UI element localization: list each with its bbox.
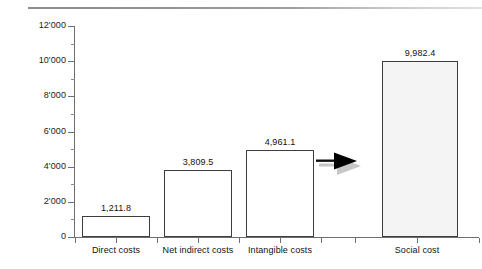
y-axis-minor-tick <box>71 149 75 150</box>
y-axis-tick <box>68 167 75 168</box>
y-axis-minor-tick <box>71 184 75 185</box>
y-axis-minor-tick <box>71 219 75 220</box>
y-axis-minor-tick <box>71 44 75 45</box>
x-axis-tick <box>157 238 158 243</box>
bar-value-label: 3,809.5 <box>152 157 244 167</box>
y-axis-tick-label: 12'000 <box>8 20 66 30</box>
bar <box>164 170 232 237</box>
bar <box>382 61 458 237</box>
x-axis-category-label: Net indirect costs <box>157 245 239 255</box>
y-axis-tick-label: 4'000 <box>8 161 66 171</box>
x-axis-category-label: Intangible costs <box>239 245 321 255</box>
chart-figure: 02'0004'0006'0008'00010'00012'000 1,211.… <box>0 0 482 269</box>
x-axis-minor-tick <box>417 238 418 243</box>
y-axis-tick-label: 10'000 <box>8 55 66 65</box>
bar-value-label: 1,211.8 <box>70 203 162 213</box>
x-axis-tick <box>239 238 240 243</box>
y-axis-tick-label: 8'000 <box>8 90 66 100</box>
bar-value-label: 4,961.1 <box>234 137 326 147</box>
x-axis-tick <box>479 238 480 243</box>
x-axis-minor-tick <box>198 238 199 243</box>
x-axis-category-label: Social cost <box>355 245 479 255</box>
x-axis-tick <box>355 238 356 243</box>
plot-area: 02'0004'0006'0008'00010'00012'000 1,211.… <box>0 0 482 269</box>
y-axis-tick <box>68 132 75 133</box>
bar <box>246 150 314 237</box>
y-axis-minor-tick <box>71 79 75 80</box>
y-axis-tick <box>68 26 75 27</box>
x-axis-minor-tick <box>116 238 117 243</box>
arrow-right-icon <box>316 150 364 176</box>
x-axis-tick <box>75 238 76 243</box>
bar-value-label: 9,982.4 <box>370 48 470 58</box>
y-axis-tick <box>68 237 75 238</box>
y-axis-tick <box>68 96 75 97</box>
y-axis-tick-label: 6'000 <box>8 126 66 136</box>
y-axis-tick-label: 2'000 <box>8 196 66 206</box>
x-axis-minor-tick <box>280 238 281 243</box>
x-axis-tick <box>321 238 322 243</box>
x-axis-category-label: Direct costs <box>75 245 157 255</box>
x-axis-line <box>74 237 479 238</box>
y-axis-tick-label: 0 <box>8 231 66 241</box>
y-axis-tick <box>68 61 75 62</box>
y-axis-minor-tick <box>71 114 75 115</box>
bar <box>82 216 150 237</box>
